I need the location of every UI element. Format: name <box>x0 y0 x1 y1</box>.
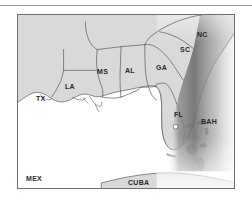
map-label-fl: FL <box>174 111 183 118</box>
figure-canvas: TX LA MS AL GA FL SC NC MEX CUBA BAH <box>0 0 252 200</box>
map-label-ms: MS <box>97 68 108 75</box>
map-label-mex: MEX <box>26 175 42 182</box>
map-label-sc: SC <box>180 46 190 53</box>
map-label-al: AL <box>125 67 135 74</box>
map-frame: TX LA MS AL GA FL SC NC MEX CUBA BAH <box>17 14 235 189</box>
map-label-bah: BAH <box>201 118 217 125</box>
gulf-stream-band <box>157 15 234 188</box>
top-horizontal-rule <box>0 5 252 6</box>
map-label-tx: TX <box>36 95 46 102</box>
map-label-ga: GA <box>156 64 167 71</box>
florida-lake-marker <box>173 124 178 129</box>
map-graphic <box>18 15 234 188</box>
map-label-nc: NC <box>197 31 208 38</box>
map-label-cuba: CUBA <box>128 179 149 186</box>
map-label-la: LA <box>65 83 75 90</box>
